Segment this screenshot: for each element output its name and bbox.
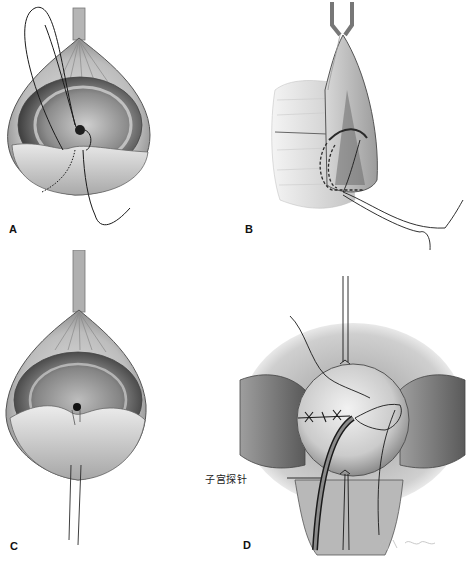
panel-b-illustration [235,0,470,250]
panel-label-b: B [245,223,253,235]
panel-label-c: C [10,540,18,552]
panel-d: 子宫探针 D [235,250,470,568]
panel-c: C [0,250,235,568]
panel-c-illustration [0,250,235,568]
callout-uterine-probe: 子宫探针 [205,471,247,486]
panel-a-illustration [0,0,235,250]
panel-label-a: A [9,223,17,235]
panel-label-d: D [243,539,251,551]
panel-a: A [0,0,235,250]
panel-d-illustration [235,250,470,568]
panel-b: B [235,0,470,250]
